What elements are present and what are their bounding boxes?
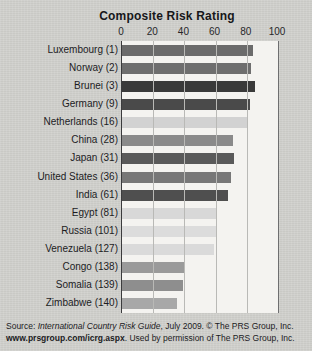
category-label: China (28) xyxy=(71,134,118,145)
bar xyxy=(122,190,228,201)
bar-rows xyxy=(122,41,278,313)
gridline-40 xyxy=(184,41,185,313)
category-label: Russia (101) xyxy=(61,225,118,236)
category-label: Congo (138) xyxy=(62,261,118,272)
bar-row xyxy=(122,226,278,237)
bar xyxy=(122,45,253,56)
bar-row xyxy=(122,99,278,110)
category-label: United States (36) xyxy=(37,171,118,182)
bar-row xyxy=(122,153,278,164)
category-label: Somalia (139) xyxy=(56,279,118,290)
x-tick-20: 20 xyxy=(147,26,158,37)
category-label: Netherlands (16) xyxy=(44,116,118,127)
footer-source-title: International Country Risk Guide xyxy=(38,321,161,331)
bar xyxy=(122,153,234,164)
footer-url[interactable]: www.prsgroup.com/icrg.aspx xyxy=(6,333,125,343)
category-label: Venezuela (127) xyxy=(45,243,118,254)
bar xyxy=(122,208,217,219)
x-tick-40: 40 xyxy=(178,26,189,37)
gridline-80 xyxy=(247,41,248,313)
x-tick-100: 100 xyxy=(269,26,286,37)
bar-row xyxy=(122,190,278,201)
bar-row xyxy=(122,298,278,309)
bar-row xyxy=(122,135,278,146)
bar xyxy=(122,99,250,110)
footer-permission-line: www.prsgroup.com/icrg.aspx. Used by perm… xyxy=(6,332,306,344)
bar-row xyxy=(122,208,278,219)
footer-source-line: Source: International Country Risk Guide… xyxy=(6,320,306,332)
category-label: Japan (31) xyxy=(70,152,118,163)
bar xyxy=(122,81,255,92)
category-label: Brunei (3) xyxy=(74,80,118,91)
bar xyxy=(122,298,177,309)
category-label: Norway (2) xyxy=(69,62,118,73)
footer-source-prefix: Source: xyxy=(6,321,38,331)
chart-title: Composite Risk Rating xyxy=(0,9,312,23)
bar-row xyxy=(122,117,278,128)
gridline-60 xyxy=(216,41,217,313)
bar-row xyxy=(122,244,278,255)
x-tick-0: 0 xyxy=(118,26,124,37)
x-tick-60: 60 xyxy=(209,26,220,37)
x-tick-80: 80 xyxy=(240,26,251,37)
bar-row xyxy=(122,45,278,56)
category-label: Luxembourg (1) xyxy=(47,44,118,55)
bar-row xyxy=(122,262,278,273)
bar-row xyxy=(122,172,278,183)
bar-row xyxy=(122,280,278,291)
footer-permission-text: . Used by permission of The PRS Group, I… xyxy=(125,333,295,343)
category-label: India (61) xyxy=(76,189,118,200)
chart-footer: Source: International Country Risk Guide… xyxy=(6,320,306,344)
category-label: Egypt (81) xyxy=(72,207,118,218)
footer-source-suffix: , July 2009. © The PRS Group, Inc. xyxy=(161,321,294,331)
category-label: Zimbabwe (140) xyxy=(46,297,118,308)
bar xyxy=(122,226,216,237)
bar-row xyxy=(122,81,278,92)
bar xyxy=(122,63,251,74)
x-axis-tick-labels: 020406080100 xyxy=(0,26,312,40)
bar xyxy=(122,244,214,255)
gridline-20 xyxy=(153,41,154,313)
bar-row xyxy=(122,63,278,74)
category-label: Germany (9) xyxy=(62,98,118,109)
plot-area xyxy=(121,41,279,313)
